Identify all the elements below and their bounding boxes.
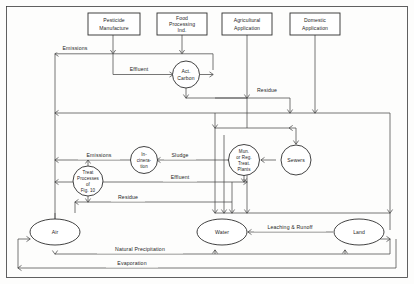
edge-label-evaporation: Evaporation — [117, 260, 146, 266]
node-agricultural-application[interactable]: Agricultural Application — [222, 13, 272, 35]
treat-processes-label-3: of — [86, 182, 91, 187]
node-food-processing[interactable]: Food Processing Ind. — [157, 13, 207, 35]
land-label: Land — [353, 229, 365, 235]
link-carbon-down — [186, 88, 247, 98]
pesticide-manufacture-label-1: Pesticide — [103, 17, 125, 23]
node-land[interactable]: Land — [334, 219, 384, 245]
agricultural-application-label-1: Agricultural — [234, 17, 261, 23]
act-carbon-label-2: Carbon — [177, 75, 194, 81]
treat-processes-label-4: Fig. 10 — [81, 188, 96, 193]
mun-reg-label-2: or Reg. — [236, 155, 251, 160]
node-act-carbon[interactable]: Act. Carbon — [173, 61, 200, 88]
edge-label-emissions-mid: Emissions — [87, 152, 112, 158]
incineration-label-3: tion — [140, 164, 148, 169]
domestic-application-label-2: Application — [302, 25, 328, 31]
edge-label-effluent-mid: Effluent — [171, 174, 190, 180]
mun-reg-label-3: Treat. — [238, 161, 250, 166]
food-processing-label-2: Processing — [169, 21, 195, 27]
node-incineration[interactable]: In- cinera- tion — [131, 147, 158, 174]
link-residue-top — [215, 98, 290, 113]
node-pesticide-manufacture[interactable]: Pesticide Manufacture — [88, 13, 140, 35]
node-treat-processes[interactable]: Treat Processes of Fig. 10 — [73, 166, 103, 196]
edge-label-leaching-runoff: Leaching & Runoff — [267, 224, 313, 230]
node-water[interactable]: Water — [197, 219, 247, 245]
link-bus-128-sewers — [215, 128, 296, 144]
mun-reg-label-4: Plants — [237, 167, 251, 172]
node-mun-reg-treat-plants[interactable]: Mun. or Reg. Treat. Plants — [229, 145, 260, 176]
edge-label-residue-top: Residue — [257, 87, 277, 93]
pesticide-pathways-diagram: Pesticide Manufacture Food Processing In… — [0, 0, 414, 284]
incineration-label-1: In- — [141, 152, 147, 157]
food-processing-label-1: Food — [176, 15, 188, 21]
act-carbon-label-1: Act. — [181, 68, 190, 74]
air-label: Air — [52, 229, 59, 235]
treat-processes-label-1: Treat — [83, 170, 94, 175]
diagram-canvas: Pesticide Manufacture Food Processing In… — [0, 0, 414, 284]
edge-label-natural-precipitation: Natural Precipitation — [115, 246, 165, 252]
node-air[interactable]: Air — [30, 219, 80, 245]
pesticide-manufacture-label-2: Manufacture — [99, 25, 128, 31]
food-processing-label-3: Ind. — [178, 27, 187, 33]
edge-label-emissions-top: Emissions — [63, 45, 88, 51]
link-air-left-loop — [18, 239, 30, 268]
edge-label-residue-mid: Residue — [118, 194, 138, 200]
sewers-label: Sewers — [287, 157, 305, 163]
agricultural-application-label-2: Application — [234, 25, 260, 31]
link-evaporation — [18, 239, 396, 268]
edge-label-effluent-top: Effluent — [130, 66, 149, 72]
domestic-application-label-1: Domestic — [304, 17, 326, 23]
treat-processes-label-2: Processes — [77, 176, 100, 181]
edge-label-sludge: Sludge — [171, 152, 188, 158]
mun-reg-label-1: Mun. — [239, 149, 249, 154]
water-label: Water — [215, 229, 229, 235]
incineration-label-2: cinera- — [137, 158, 152, 163]
node-sewers[interactable]: Sewers — [281, 145, 311, 175]
node-domestic-application[interactable]: Domestic Application — [290, 13, 340, 35]
